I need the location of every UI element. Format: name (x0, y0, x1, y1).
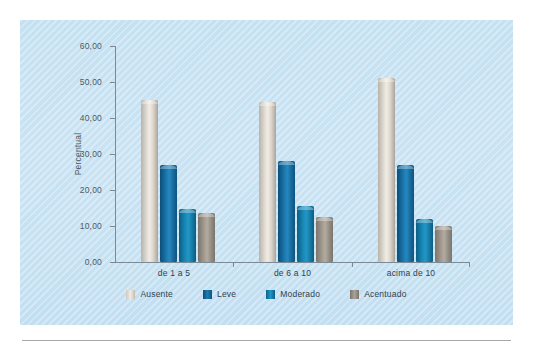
legend-item-acentuado: Acentuado (350, 289, 406, 299)
y-tick-label-40: 40,00 (80, 113, 102, 123)
x-axis-line (115, 262, 470, 263)
bar-group-de-1-a-5: de 1 a 5 (115, 46, 233, 262)
legend-swatch-moderado-icon (266, 290, 275, 299)
bar-leve-2 (397, 165, 414, 262)
bar-moderado-2 (416, 219, 433, 262)
y-tick-0: 0,00 (110, 262, 115, 263)
bar-ausente-2 (378, 78, 395, 262)
bar-ausente-0 (141, 100, 158, 262)
legend-label-leve: Leve (217, 289, 236, 299)
bar-moderado-1 (297, 206, 314, 262)
legend-label-ausente: Ausente (140, 289, 173, 299)
legend-item-moderado: Moderado (266, 289, 320, 299)
x-tick-sep-1 (233, 262, 234, 267)
legend-swatch-ausente-icon (126, 290, 135, 299)
bar-acentuado-2 (435, 226, 452, 262)
legend-item-leve: Leve (203, 289, 236, 299)
bar-group-de-6-a-10: de 6 a 10 (233, 46, 352, 262)
y-tick-label-20: 20,00 (80, 185, 102, 195)
page-divider-rule (22, 340, 511, 341)
bar-ausente-1 (259, 102, 276, 262)
bar-acentuado-0 (198, 213, 215, 262)
y-tick-label-30: 30,00 (80, 149, 102, 159)
x-tick-sep-2 (352, 262, 353, 267)
legend-item-ausente: Ausente (126, 289, 173, 299)
bar-group-acima-de-10: acima de 10 (352, 46, 470, 262)
x-category-label-1: de 6 a 10 (233, 268, 352, 278)
bar-moderado-0 (179, 209, 196, 262)
bar-leve-0 (160, 165, 177, 262)
legend-label-moderado: Moderado (280, 289, 320, 299)
legend-label-acentuado: Acentuado (364, 289, 406, 299)
chart-figure: Percentual 0,00 10,00 20,00 30,00 40,00 … (20, 20, 513, 325)
y-tick-label-10: 10,00 (80, 221, 102, 231)
chart-legend: Ausente Leve Moderado Acentuado (20, 289, 513, 299)
x-category-label-0: de 1 a 5 (115, 268, 233, 278)
y-tick-label-50: 50,00 (80, 77, 102, 87)
x-tick-sep-3 (469, 262, 470, 267)
y-tick-label-0: 0,00 (85, 257, 102, 267)
y-tick-label-60: 60,00 (80, 41, 102, 51)
plot-area: Percentual 0,00 10,00 20,00 30,00 40,00 … (115, 46, 470, 288)
legend-swatch-leve-icon (203, 290, 212, 299)
legend-swatch-acentuado-icon (350, 290, 359, 299)
bar-leve-1 (278, 161, 295, 262)
x-category-label-2: acima de 10 (352, 268, 470, 278)
bar-acentuado-1 (316, 217, 333, 262)
